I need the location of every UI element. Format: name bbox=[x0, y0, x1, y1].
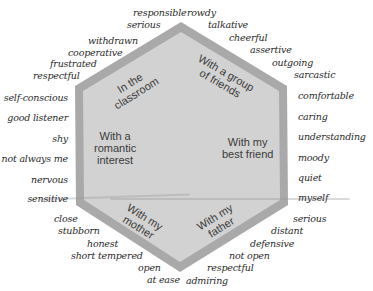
word: respectful bbox=[33, 70, 80, 81]
word: myself bbox=[298, 192, 328, 203]
word: at ease bbox=[147, 274, 180, 285]
word: not always me bbox=[2, 153, 68, 164]
word: honest bbox=[87, 238, 118, 249]
word: withdrawn bbox=[88, 35, 138, 46]
word: good listener bbox=[7, 112, 68, 123]
word: rowdy bbox=[187, 7, 216, 18]
segment-romantic: With a romantic interest bbox=[94, 130, 136, 166]
word: cheerful bbox=[229, 32, 267, 43]
word: caring bbox=[298, 111, 328, 122]
word: sarcastic bbox=[294, 69, 335, 80]
word: understanding bbox=[298, 131, 366, 142]
word: cooperative bbox=[68, 47, 122, 58]
word: frustrated bbox=[50, 58, 97, 69]
word: close bbox=[54, 213, 78, 224]
word: self-conscious bbox=[4, 92, 68, 103]
word: serious bbox=[127, 19, 160, 30]
word: sensitive bbox=[27, 193, 68, 204]
segment-label: romantic bbox=[94, 142, 136, 154]
word: assertive bbox=[250, 44, 292, 55]
personality-hexagon-diagram: In the classroom With a group of friends… bbox=[0, 0, 373, 291]
word: not open bbox=[229, 250, 270, 261]
word: shy bbox=[52, 133, 68, 144]
word: moody bbox=[298, 152, 329, 163]
word: responsible bbox=[133, 7, 186, 18]
word: quiet bbox=[298, 172, 322, 183]
word: open bbox=[138, 262, 161, 273]
word: serious bbox=[293, 213, 326, 224]
segment-best-friend: With my best friend bbox=[222, 136, 273, 160]
word: admiring bbox=[186, 275, 228, 286]
word: talkative bbox=[208, 19, 248, 30]
word: respectful bbox=[207, 262, 254, 273]
segment-label: best friend bbox=[222, 148, 273, 160]
word: outgoing bbox=[272, 57, 313, 68]
word: comfortable bbox=[298, 90, 354, 101]
segment-label: interest bbox=[94, 154, 136, 166]
word: nervous bbox=[31, 174, 68, 185]
hexagon-shape bbox=[0, 0, 373, 291]
word: distant bbox=[271, 225, 303, 236]
segment-label: With a bbox=[94, 130, 136, 142]
segment-label: With my bbox=[222, 136, 273, 148]
word: short tempered bbox=[71, 250, 143, 261]
word: defensive bbox=[250, 238, 294, 249]
word: stubborn bbox=[58, 225, 100, 236]
